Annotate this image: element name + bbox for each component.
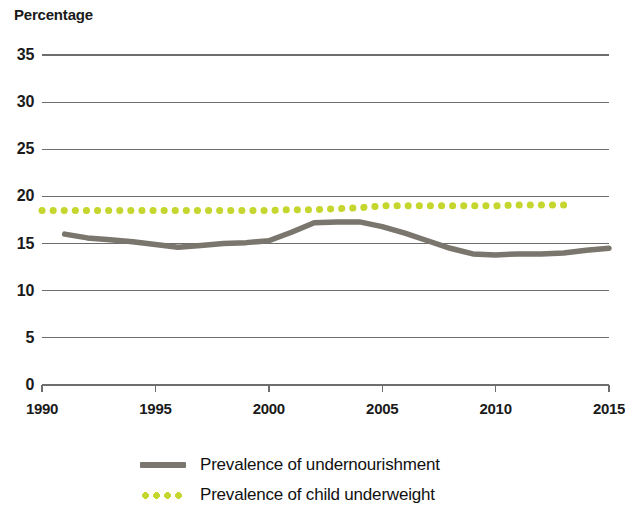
x-axis-tick-label: 1990: [26, 400, 58, 417]
y-axis-tick-label: 25: [0, 140, 34, 158]
legend-item-child-underweight: Prevalence of child underweight: [140, 482, 435, 508]
y-axis-tick-label: 5: [0, 329, 34, 347]
y-axis-tick-label: 35: [0, 46, 34, 64]
x-axis-tick-label: 2010: [480, 400, 512, 417]
y-axis-tick-label: 15: [0, 235, 34, 253]
x-axis-tick-label: 2015: [593, 400, 625, 417]
legend-label-undernourishment: Prevalence of undernourishment: [200, 455, 440, 475]
series-line-2: [42, 205, 564, 211]
plot-svg: [0, 0, 625, 440]
y-axis-tick-label: 30: [0, 93, 34, 111]
legend-swatch-dotted-line-icon: [140, 492, 186, 499]
legend-label-child-underweight: Prevalence of child underweight: [200, 485, 435, 505]
chart-figure: Percentage 05101520253035 19901995200020…: [0, 0, 625, 518]
series-line-1: [65, 222, 609, 255]
y-axis-tick-label: 20: [0, 187, 34, 205]
y-axis-tick-label: 10: [0, 282, 34, 300]
plot-area: [0, 0, 625, 440]
x-axis-tick-label: 2000: [253, 400, 285, 417]
x-axis-tick-label: 1995: [139, 400, 171, 417]
legend-item-undernourishment: Prevalence of undernourishment: [140, 452, 440, 478]
y-axis-tick-label: 0: [0, 376, 34, 394]
legend-swatch-solid-line-icon: [140, 462, 186, 468]
x-axis-tick-label: 2005: [366, 400, 398, 417]
